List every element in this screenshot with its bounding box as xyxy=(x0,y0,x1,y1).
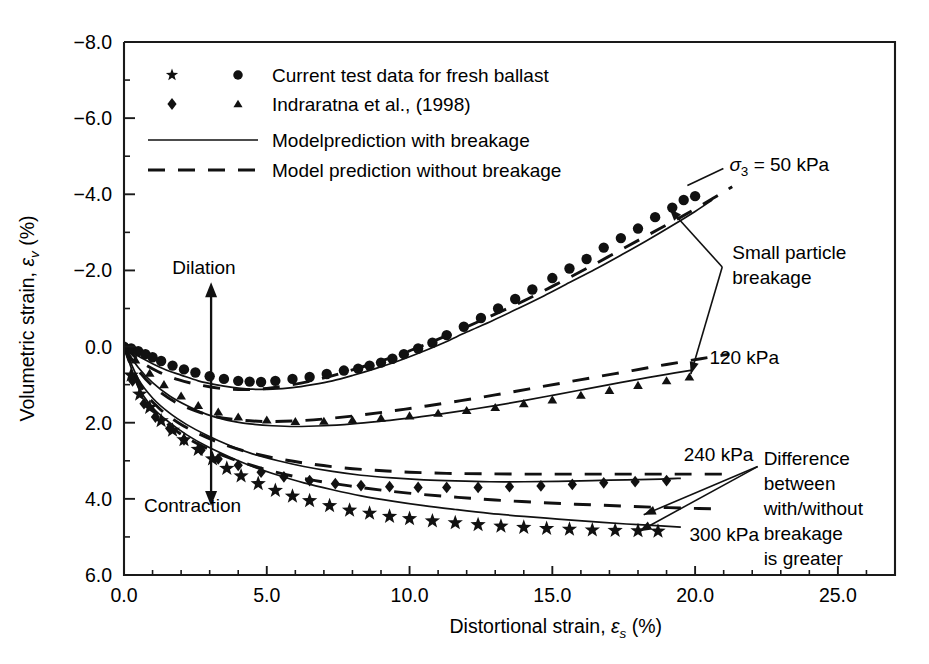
diamond-data-point xyxy=(599,477,608,489)
curve-without-breakage xyxy=(124,187,732,390)
circle-data-point xyxy=(527,284,537,294)
circle-data-point xyxy=(679,195,689,205)
star-data-point xyxy=(382,508,397,523)
annotation-difference-line3: with/without xyxy=(763,498,864,519)
circle-data-point xyxy=(690,191,700,201)
series-circle xyxy=(119,191,700,387)
annotation-difference-line5: is greater xyxy=(764,548,844,569)
x-axis-title: Distortional strain, εs (%) xyxy=(450,615,663,641)
star-data-point xyxy=(585,522,600,537)
legend-label-without-breakage: Model prediction without breakage xyxy=(272,160,561,181)
diamond-data-point xyxy=(662,475,671,487)
triangle-data-point xyxy=(213,407,223,415)
circle-data-point xyxy=(304,372,314,382)
y-tick-label: −4.0 xyxy=(74,183,113,205)
y-axis-title-group: Volumetric strain, εv (%) xyxy=(16,215,42,421)
circle-data-point xyxy=(376,357,386,367)
triangle-data-point xyxy=(662,376,672,384)
circle-data-point xyxy=(287,374,297,384)
triangle-data-point xyxy=(633,381,643,389)
legend-circle-icon xyxy=(233,70,243,80)
circle-data-point xyxy=(650,212,660,222)
sigma-subscript-3: 3 xyxy=(741,164,749,179)
plot-area xyxy=(116,187,732,538)
legend-label-indraratna: Indraratna et al., (1998) xyxy=(272,94,471,115)
annotation-difference-line2: between xyxy=(764,473,836,494)
circle-data-point xyxy=(190,367,200,377)
diamond-data-point xyxy=(385,481,394,493)
triangle-data-point xyxy=(159,380,169,388)
circle-data-point xyxy=(179,364,189,374)
annotation-contraction: Contraction xyxy=(144,495,241,516)
star-data-point xyxy=(268,482,283,497)
circle-data-point xyxy=(364,360,374,370)
circle-data-point xyxy=(339,365,349,375)
annotation-difference-line4: breakage xyxy=(764,523,843,544)
triangle-data-point xyxy=(376,414,386,422)
circle-data-point xyxy=(459,322,469,332)
star-data-point xyxy=(402,511,417,526)
x-tick-label: 25.0 xyxy=(819,584,857,606)
circle-data-point xyxy=(204,371,214,381)
y-tick-label: −2.0 xyxy=(74,259,113,281)
legend-star-icon xyxy=(166,69,178,81)
y-tick-label: 6.0 xyxy=(85,564,112,586)
triangle-data-point xyxy=(405,411,415,419)
circle-data-point xyxy=(387,354,397,364)
star-data-point xyxy=(285,488,300,503)
arrow-difference-to-300kpa-head xyxy=(639,521,652,531)
triangle-data-point xyxy=(433,409,443,417)
y-tick-label: 2.0 xyxy=(85,412,112,434)
x-tick-label: 0.0 xyxy=(110,584,137,606)
annotation-small-particle-breakage-line1: Small particle xyxy=(732,242,846,263)
y-axis-unit: (%) xyxy=(16,215,38,251)
circle-data-point xyxy=(581,254,591,264)
star-data-point xyxy=(470,517,485,532)
circle-data-point xyxy=(547,273,557,283)
triangle-data-point xyxy=(233,412,243,420)
star-data-point xyxy=(539,521,554,536)
volumetric-strain-chart: 0.05.010.015.020.025.0−8.0−6.0−4.0−2.00.… xyxy=(0,0,929,664)
circle-data-point xyxy=(441,330,451,340)
y-tick-label: −6.0 xyxy=(74,107,113,129)
diamond-data-point xyxy=(331,478,340,490)
chart-figure: 0.05.010.015.020.025.0−8.0−6.0−4.0−2.00.… xyxy=(0,0,929,664)
triangle-data-point xyxy=(605,386,615,394)
circle-data-point xyxy=(476,313,486,323)
circle-data-point xyxy=(244,376,254,386)
circle-data-point xyxy=(167,360,177,370)
circle-data-point xyxy=(510,294,520,304)
diamond-data-point xyxy=(473,482,482,494)
star-data-point xyxy=(302,493,317,508)
triangle-data-point xyxy=(262,415,272,423)
dilation-arrowhead xyxy=(205,282,217,297)
diamond-data-point xyxy=(442,482,451,494)
annotation-dilation: Dilation xyxy=(172,257,235,278)
sigma-value: = 50 kPa xyxy=(748,154,829,175)
triangle-data-point xyxy=(576,391,586,399)
annotation-sigma3-50kpa: σ3 = 50 kPa xyxy=(729,154,829,179)
circle-data-point xyxy=(353,363,363,373)
x-axis-unit: (%) xyxy=(626,615,662,637)
annotation-120kpa: 120 kPa xyxy=(709,347,779,368)
star-data-point xyxy=(251,476,266,491)
star-data-point xyxy=(425,513,440,528)
star-data-point xyxy=(493,518,508,533)
circle-data-point xyxy=(256,377,266,387)
circle-data-point xyxy=(399,349,409,359)
legend-triangle-icon xyxy=(233,100,242,108)
triangle-data-point xyxy=(176,392,186,400)
circle-data-point xyxy=(233,376,243,386)
star-data-point xyxy=(562,521,577,536)
star-data-point xyxy=(191,441,206,456)
legend-label-current-test-data: Current test data for fresh ballast xyxy=(272,65,549,86)
circle-data-point xyxy=(270,376,280,386)
y-tick-label: −8.0 xyxy=(74,31,113,53)
x-tick-label: 20.0 xyxy=(676,584,714,606)
circle-data-point xyxy=(616,233,626,243)
annotation-difference-line1: Difference xyxy=(764,448,850,469)
triangle-data-point xyxy=(685,372,695,380)
star-data-point xyxy=(516,519,531,534)
x-tick-label: 15.0 xyxy=(533,584,571,606)
diamond-data-point xyxy=(356,480,365,492)
